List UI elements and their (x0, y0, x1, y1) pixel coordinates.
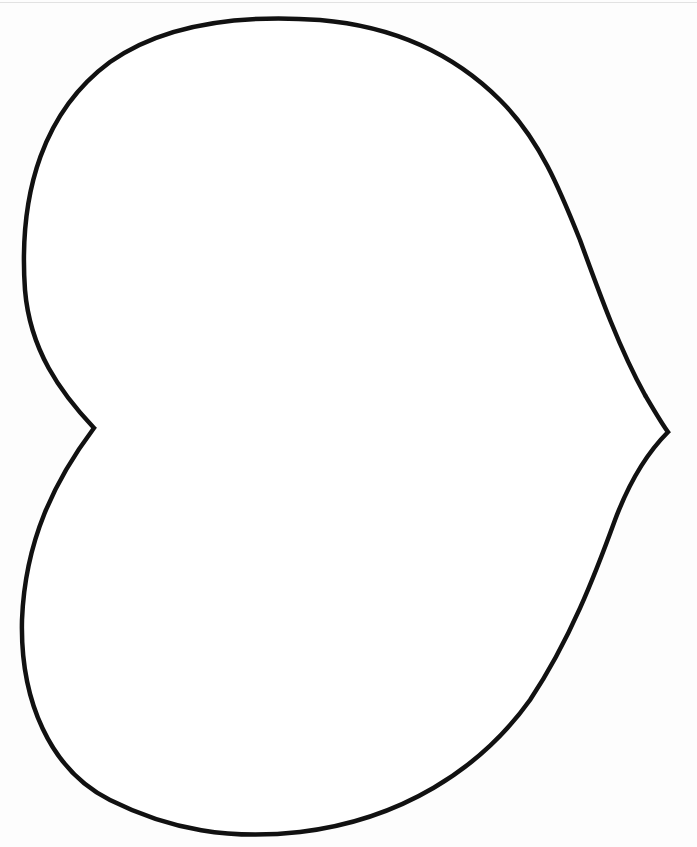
heart-outline-shape (0, 0, 697, 847)
scanned-page (0, 0, 697, 847)
heart-outline-path (22, 18, 668, 834)
